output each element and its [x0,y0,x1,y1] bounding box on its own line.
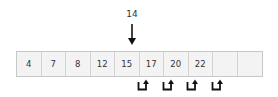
array-cell: 22 [189,52,214,76]
insert-down-arrow-icon [126,24,138,46]
array-cell: 15 [115,52,140,76]
array-cell-empty [238,52,263,76]
shift-right-arrow-icon [162,79,174,92]
array-cell: 8 [66,52,91,76]
insert-value-label: 14 [121,9,143,19]
array-cell: 12 [91,52,116,76]
sorted-array: 4 7 8 12 15 17 20 22 [16,51,263,77]
shift-right-arrow-icon [186,79,198,92]
shift-right-arrow-icon [211,79,223,92]
array-cell: 4 [17,52,42,76]
array-cell-empty [213,52,238,76]
array-cell: 20 [164,52,189,76]
array-cell: 17 [140,52,165,76]
shift-right-arrow-icon [137,79,149,92]
array-cell: 7 [42,52,67,76]
